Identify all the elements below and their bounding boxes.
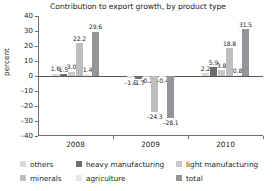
y-tick xyxy=(35,31,38,32)
legend-swatch-icon xyxy=(76,161,82,167)
bar-value-label: 29.6 xyxy=(89,23,102,30)
x-tick-label: 2008 xyxy=(66,140,85,149)
y-axis-label: percent xyxy=(2,48,11,76)
legend-row: othersheavy manufacturinglight manufactu… xyxy=(20,157,276,171)
bar xyxy=(92,32,99,76)
y-tick xyxy=(35,106,38,107)
legend-swatch-icon xyxy=(20,175,26,181)
legend-swatch-icon xyxy=(20,161,26,167)
bar xyxy=(52,74,59,76)
legend-label: minerals xyxy=(30,174,62,183)
x-tick xyxy=(263,136,264,139)
y-tick xyxy=(35,121,38,122)
y-tick-label: 40 xyxy=(13,12,33,20)
chart-container: Contribution to export growth, by produc… xyxy=(0,0,276,191)
y-tick-label: 30 xyxy=(13,27,33,35)
bar-value-label: 31.5 xyxy=(239,21,252,28)
x-tick-label: 2010 xyxy=(216,140,235,149)
legend-swatch-icon xyxy=(76,175,82,181)
legend-item[interactable]: minerals xyxy=(20,171,62,185)
bar xyxy=(68,72,75,77)
x-tick xyxy=(113,136,114,139)
y-tick xyxy=(35,16,38,17)
y-tick-label: 20 xyxy=(13,42,33,50)
bar-value-label: –28.1 xyxy=(162,119,178,126)
y-tick xyxy=(35,46,38,47)
bar xyxy=(218,70,225,76)
legend-swatch-icon xyxy=(176,161,182,167)
y-tick-label: –20 xyxy=(13,102,33,110)
y-tick-label: –40 xyxy=(13,132,33,140)
y-tick-label: –30 xyxy=(13,117,33,125)
legend-item[interactable]: others xyxy=(20,157,53,171)
bar-value-label: 1.4 xyxy=(83,66,92,73)
legend-label: others xyxy=(30,160,53,169)
chart-legend: othersheavy manufacturinglight manufactu… xyxy=(20,157,276,185)
plot-area: 403020100–10–20–30–40 1.61.53.022.21.429… xyxy=(38,16,263,136)
bar-value-label: 18.8 xyxy=(223,40,236,47)
x-axis-line xyxy=(38,135,263,136)
legend-label: total xyxy=(186,174,203,183)
y-tick xyxy=(35,61,38,62)
chart-title: Contribution to export growth, by produc… xyxy=(0,2,276,11)
bar-value-label: 22.2 xyxy=(73,35,86,42)
legend-label: light manufacturing xyxy=(186,160,258,169)
y-tick-label: –10 xyxy=(13,87,33,95)
x-tick xyxy=(188,136,189,139)
bar xyxy=(234,75,241,76)
bar-value-label: –24.3 xyxy=(146,113,162,120)
legend-item[interactable]: agriculture xyxy=(76,171,126,185)
legend-label: agriculture xyxy=(86,174,126,183)
bar xyxy=(167,76,174,118)
x-tick-label: 2009 xyxy=(141,140,160,149)
y-tick xyxy=(35,136,38,137)
bar xyxy=(242,29,249,76)
y-tick-label: 10 xyxy=(13,57,33,65)
legend-item[interactable]: total xyxy=(176,171,203,185)
bar xyxy=(60,74,67,76)
legend-item[interactable]: light manufacturing xyxy=(176,157,258,171)
bar xyxy=(84,74,91,76)
bar-value-label: 0.8 xyxy=(233,67,242,74)
legend-label: heavy manufacturing xyxy=(86,160,164,169)
y-tick-label: 0 xyxy=(13,72,33,80)
legend-item[interactable]: heavy manufacturing xyxy=(76,157,164,171)
legend-swatch-icon xyxy=(176,175,182,181)
legend-row: mineralsagriculturetotal xyxy=(20,171,276,185)
bar xyxy=(202,73,209,76)
y-tick xyxy=(35,91,38,92)
bar-value-label: 3.0 xyxy=(67,63,76,70)
bar-value-label: 3.8 xyxy=(217,62,226,69)
